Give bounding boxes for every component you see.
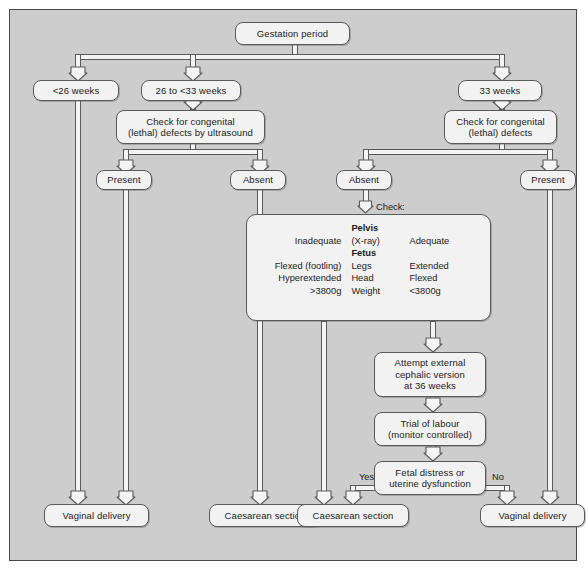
node-check-defects-line1: Check for congenital: [456, 116, 545, 128]
check-criteria-row: Pelvis: [253, 222, 484, 235]
connector-panel-left-to-caesarean: [321, 321, 327, 492]
arrowhead-to-distress: [423, 446, 443, 462]
node-trial-of-labour[interactable]: Trial of labour (monitor controlled): [374, 412, 486, 446]
check-criteria-cell: Pelvis: [345, 222, 405, 235]
check-criteria-row: >3800gWeight<3800g: [253, 285, 484, 298]
connector-top-bus: [75, 54, 505, 60]
connector-present-to-vaginal-right: [547, 188, 553, 492]
node-check-ultrasound-line2: (lethal) defects by ultrasound: [128, 127, 253, 139]
node-mid-absent[interactable]: Absent: [230, 170, 286, 190]
arrowhead-to-trial: [423, 397, 443, 413]
check-criteria-cell: Weight: [345, 285, 405, 298]
node-fetal-distress[interactable]: Fetal distress or uterine dysfunction: [374, 461, 486, 495]
check-label: Check:: [376, 202, 405, 212]
node-gestation-period[interactable]: Gestation period: [235, 22, 350, 45]
check-criteria-row: HyperextendedHeadFlexed: [253, 272, 484, 285]
node-26-to-33-weeks-label: 26 to <33 weeks: [156, 85, 227, 97]
node-distress-line1: Fetal distress or: [395, 467, 464, 479]
check-criteria-cell: [405, 247, 484, 260]
check-criteria-cell: Flexed: [405, 272, 484, 285]
node-trial-line2: (monitor controlled): [388, 429, 472, 441]
node-outcome-caesarean-right-label: Caesarean section: [313, 510, 394, 522]
node-right-present[interactable]: Present: [520, 170, 576, 190]
arrowhead-check-panel: [357, 200, 374, 214]
check-criteria-row: Flexed (footling)LegsExtended: [253, 260, 484, 273]
check-criteria-cell: <3800g: [405, 285, 484, 298]
node-ecv-line1: Attempt external: [395, 357, 466, 369]
check-criteria-row: Fetus: [253, 247, 484, 260]
node-check-congenital-defects[interactable]: Check for congenital (lethal) defects: [444, 110, 557, 144]
node-26-to-33-weeks[interactable]: 26 to <33 weeks: [141, 80, 241, 101]
flowchart-canvas: Gestation period <26 weeks 26 to <33 wee…: [0, 0, 588, 578]
node-outcome-vaginal-right[interactable]: Vaginal delivery: [480, 504, 585, 527]
check-criteria-cell: [253, 222, 345, 235]
check-criteria-cell: (X-ray): [345, 235, 405, 248]
panel-pelvis-fetus-check: PelvisInadequate(X-ray)AdequateFetusFlex…: [246, 214, 491, 321]
check-criteria-row: Inadequate(X-ray)Adequate: [253, 235, 484, 248]
node-right-absent[interactable]: Absent: [336, 170, 392, 190]
check-criteria-cell: Fetus: [345, 247, 405, 260]
edge-label-no: No: [492, 472, 504, 482]
node-outcome-vaginal-left[interactable]: Vaginal delivery: [44, 504, 149, 527]
node-ecv-line3: at 36 weeks: [404, 380, 456, 392]
node-33-weeks-label: 33 weeks: [480, 85, 521, 97]
node-distress-line2: uterine dysfunction: [389, 478, 471, 490]
node-attempt-ecv[interactable]: Attempt external cephalic version at 36 …: [374, 352, 486, 397]
check-criteria-cell: Head: [345, 272, 405, 285]
connector-us-bus: [123, 149, 263, 155]
connector-def-bus: [363, 149, 553, 155]
connector-lt26-to-vaginal: [75, 94, 81, 492]
node-trial-line1: Trial of labour: [400, 418, 459, 430]
node-outcome-vaginal-left-label: Vaginal delivery: [63, 510, 131, 522]
node-mid-present-label: Present: [107, 174, 140, 186]
node-check-defects-line2: (lethal) defects: [469, 127, 533, 139]
node-mid-present[interactable]: Present: [96, 170, 152, 190]
arrowhead-to-ecv: [423, 337, 443, 353]
node-mid-absent-label: Absent: [243, 174, 273, 186]
node-33-weeks[interactable]: 33 weeks: [458, 80, 542, 101]
check-criteria-cell: Hyperextended: [253, 272, 345, 285]
check-criteria-cell: Adequate: [405, 235, 484, 248]
check-criteria-cell: [405, 222, 484, 235]
check-criteria-cell: Flexed (footling): [253, 260, 345, 273]
node-outcome-caesarean-right[interactable]: Caesarean section: [297, 504, 409, 527]
edge-label-yes: Yes: [359, 472, 374, 482]
node-check-congenital-ultrasound[interactable]: Check for congenital (lethal) defects by…: [116, 110, 265, 144]
check-criteria-cell: Legs: [345, 260, 405, 273]
diagram-frame: Gestation period <26 weeks 26 to <33 wee…: [9, 9, 577, 561]
check-criteria-cell: [253, 247, 345, 260]
node-lt26-weeks-label: <26 weeks: [53, 85, 100, 97]
node-lt26-weeks[interactable]: <26 weeks: [33, 80, 119, 101]
check-criteria-cell: Inadequate: [253, 235, 345, 248]
node-outcome-vaginal-right-label: Vaginal delivery: [499, 510, 567, 522]
check-criteria-cell: Extended: [405, 260, 484, 273]
check-criteria-cell: >3800g: [253, 285, 345, 298]
node-ecv-line2: cephalic version: [395, 369, 465, 381]
connector-present-to-vaginal: [123, 188, 129, 492]
node-right-present-label: Present: [531, 174, 564, 186]
node-check-ultrasound-line1: Check for congenital: [146, 116, 235, 128]
node-outcome-caesarean-left-label: Caesarean section: [225, 510, 306, 522]
node-gestation-period-label: Gestation period: [257, 28, 328, 40]
node-right-absent-label: Absent: [349, 174, 379, 186]
check-criteria-table: PelvisInadequate(X-ray)AdequateFetusFlex…: [253, 222, 484, 297]
